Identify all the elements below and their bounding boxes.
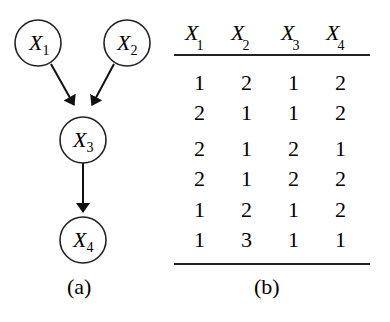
table-row: 2 1 2 2 (194, 166, 346, 191)
svg-text:2: 2 (288, 166, 299, 191)
node-x2: X2 (104, 20, 150, 66)
svg-text:1: 1 (288, 227, 299, 252)
edge-x1-x3 (51, 64, 74, 105)
svg-text:1: 1 (241, 166, 252, 191)
table-row: 1 3 1 1 (194, 227, 346, 252)
svg-text:1: 1 (288, 70, 299, 95)
caption-b: (b) (254, 274, 280, 299)
svg-text:2: 2 (335, 197, 346, 222)
svg-text:1: 1 (194, 70, 205, 95)
svg-text:1: 1 (241, 100, 252, 125)
svg-text:1: 1 (335, 136, 346, 161)
svg-text:2: 2 (194, 136, 205, 161)
svg-text:2: 2 (335, 100, 346, 125)
edge-x2-x3 (92, 64, 114, 105)
table-row: 2 1 2 1 (194, 136, 346, 161)
node-x3: X3 (60, 117, 106, 163)
svg-text:2: 2 (194, 166, 205, 191)
svg-text:3: 3 (241, 227, 252, 252)
table-row: 1 2 1 2 (194, 197, 346, 222)
svg-text:X2: X2 (230, 20, 249, 53)
svg-text:X3: X3 (280, 20, 299, 53)
table-header: X1 X2 X3 X4 (184, 20, 344, 53)
svg-text:X1: X1 (184, 20, 203, 53)
svg-text:2: 2 (335, 166, 346, 191)
svg-text:1: 1 (241, 136, 252, 161)
svg-text:1: 1 (194, 197, 205, 222)
node-x4: X4 (60, 217, 106, 263)
svg-text:2: 2 (288, 136, 299, 161)
svg-text:1: 1 (288, 100, 299, 125)
svg-text:1: 1 (194, 227, 205, 252)
svg-text:2: 2 (241, 197, 252, 222)
svg-text:2: 2 (194, 100, 205, 125)
svg-text:2: 2 (241, 70, 252, 95)
svg-text:1: 1 (288, 197, 299, 222)
bayesian-network: X1 X2 X3 X4 (a) (15, 20, 150, 299)
node-x1: X1 (15, 20, 61, 66)
svg-text:1: 1 (335, 227, 346, 252)
data-table: X1 X2 X3 X4 1 2 1 2 2 1 1 2 2 1 2 1 2 1 … (174, 20, 370, 299)
figure: X1 X2 X3 X4 (a) X1 X2 X3 X4 1 2 1 2 (0, 0, 390, 322)
caption-a: (a) (67, 274, 91, 299)
svg-text:2: 2 (335, 70, 346, 95)
table-row: 2 1 1 2 (194, 100, 346, 125)
table-row: 1 2 1 2 (194, 70, 346, 95)
svg-text:X4: X4 (325, 20, 344, 53)
